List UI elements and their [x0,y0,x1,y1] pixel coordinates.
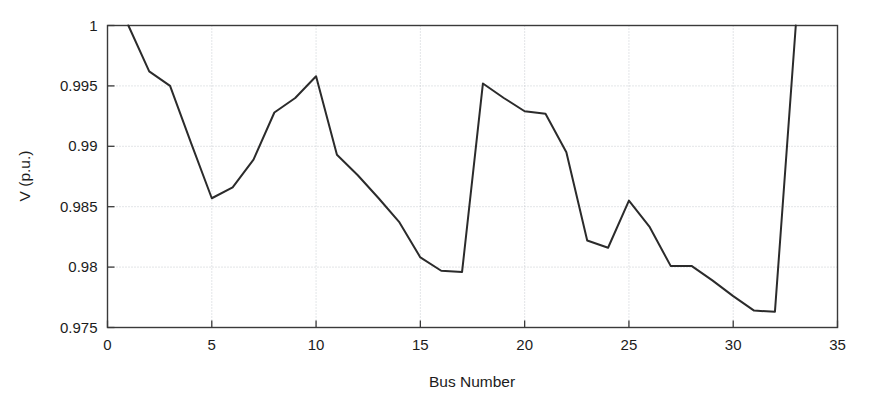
x-tick-label: 5 [208,336,216,353]
y-tick-label: 1 [89,17,97,34]
chart-canvas: 0.9750.980.9850.990.9951 05101520253035 … [0,0,880,397]
y-tick-label: 0.995 [60,77,98,94]
y-axis-title: V (p.u.) [16,151,33,202]
y-tick-label: 0.985 [60,198,98,215]
y-tick-label: 0.975 [60,319,98,336]
x-tick-label: 20 [516,336,533,353]
y-tick-label: 0.98 [68,258,97,275]
figure-background [0,0,880,397]
x-tick-label: 15 [412,336,429,353]
y-tick-label: 0.99 [68,137,97,154]
x-axis-title: Bus Number [429,373,515,390]
x-tick-label: 30 [725,336,742,353]
x-tick-label: 25 [621,336,638,353]
voltage-profile-figure: 0.9750.980.9850.990.9951 05101520253035 … [0,0,880,397]
x-tick-label: 10 [308,336,325,353]
x-tick-label: 0 [103,336,111,353]
x-tick-label: 35 [829,336,846,353]
